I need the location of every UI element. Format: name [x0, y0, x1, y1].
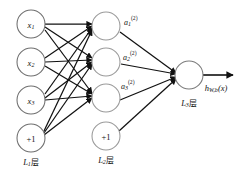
node-x1-sub: 1 [31, 24, 34, 30]
activation-label-a2: a2(2) [123, 50, 137, 62]
layer-L2-nodes: +1 [92, 12, 120, 150]
activation-label-a1: a1(2) [124, 15, 138, 27]
activation-labels: a1(2) a2(2) a3(2) [121, 15, 138, 91]
edges-input-to-hidden [44, 24, 92, 135]
node-h1 [92, 12, 120, 40]
node-bias-L1-label: +1 [26, 134, 35, 144]
node-x2-sub: 2 [31, 62, 34, 68]
layer-label-L3: L3层 [180, 98, 197, 108]
node-output [175, 61, 203, 89]
node-x2: x2 [17, 48, 45, 76]
layer-L3-nodes [175, 61, 203, 89]
edge-h1-o1 [120, 32, 176, 73]
edge-b1-h2 [44, 64, 92, 133]
activation-label-a3: a3(2) [121, 79, 135, 91]
node-bias-L1: +1 [17, 124, 45, 152]
neural-network-diagram: x1 x2 x3 +1 [0, 0, 240, 176]
layer-label-L2: L2层 [97, 155, 114, 165]
layer-label-L1: L1层 [22, 157, 39, 167]
node-bias-L2-label: +1 [101, 132, 110, 142]
network-canvas: x1 x2 x3 +1 [0, 0, 240, 176]
node-x3: x3 [17, 86, 45, 114]
node-h3 [92, 84, 120, 112]
node-bias-L2: +1 [92, 122, 120, 150]
node-h2 [92, 48, 120, 76]
layer-L1-nodes: x1 x2 x3 +1 [17, 10, 45, 152]
edge-h2-o1 [121, 64, 176, 74]
output-function-label: hW,b(x) [205, 83, 228, 93]
node-x1: x1 [17, 10, 45, 38]
node-x3-sub: 3 [30, 100, 34, 106]
